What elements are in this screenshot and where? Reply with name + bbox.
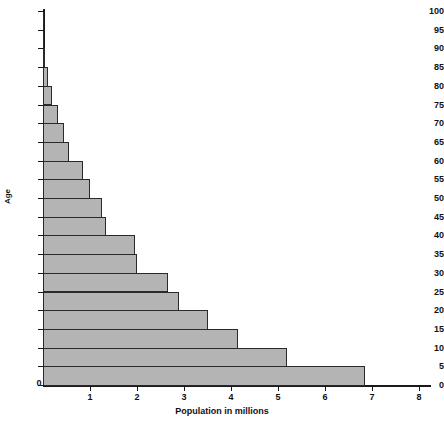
bar-age-90-95: [43, 30, 44, 50]
y-tick-mark-80: [38, 86, 44, 87]
x-tick-label-1: 1: [78, 392, 102, 402]
x-tick-mark-1: [90, 386, 91, 391]
y-tick-mark-25: [38, 292, 44, 293]
y-tick-label-25: 25: [410, 288, 444, 297]
y-tick-label-95: 95: [410, 26, 444, 35]
bar-age-95-100: [43, 11, 44, 31]
y-tick-label-55: 55: [410, 175, 444, 184]
y-tick-mark-15: [38, 329, 44, 330]
y-tick-label-35: 35: [410, 250, 444, 259]
y-tick-mark-30: [38, 273, 44, 274]
y-tick-mark-85: [38, 67, 44, 68]
x-tick-label-0: 0: [27, 378, 51, 388]
population-pyramid-chart: 0510152025303540455055606570758085909510…: [0, 0, 444, 425]
x-tick-label-8: 8: [407, 392, 431, 402]
y-tick-label-80: 80: [410, 82, 444, 91]
x-tick-label-6: 6: [313, 392, 337, 402]
bar-age-45-50: [43, 198, 102, 218]
y-tick-label-40: 40: [410, 231, 444, 240]
y-tick-label-75: 75: [410, 101, 444, 110]
x-tick-mark-7: [372, 386, 373, 391]
y-tick-mark-70: [38, 123, 44, 124]
y-tick-mark-10: [38, 348, 44, 349]
x-axis-title: Population in millions: [0, 406, 444, 416]
y-tick-label-0: 0: [410, 381, 444, 390]
bar-age-70-75: [43, 105, 58, 125]
y-tick-label-5: 5: [410, 362, 444, 371]
x-tick-mark-5: [278, 386, 279, 391]
y-tick-mark-5: [38, 366, 44, 367]
y-tick-mark-75: [38, 105, 44, 106]
x-tick-mark-3: [184, 386, 185, 391]
y-tick-label-85: 85: [410, 63, 444, 72]
bar-age-50-55: [43, 179, 90, 199]
y-tick-mark-50: [38, 198, 44, 199]
y-tick-label-15: 15: [410, 325, 444, 334]
bar-age-75-80: [43, 86, 52, 106]
bar-age-80-85: [43, 67, 48, 87]
y-tick-mark-40: [38, 235, 44, 236]
bar-age-10-15: [43, 329, 238, 349]
y-tick-mark-45: [38, 217, 44, 218]
x-tick-label-7: 7: [360, 392, 384, 402]
y-tick-mark-90: [38, 48, 44, 49]
y-tick-label-100: 100: [410, 7, 444, 16]
y-tick-mark-55: [38, 179, 44, 180]
y-tick-label-60: 60: [410, 157, 444, 166]
y-axis-title: Age: [3, 182, 12, 212]
bar-age-15-20: [43, 310, 208, 330]
y-tick-label-20: 20: [410, 306, 444, 315]
bar-age-35-40: [43, 235, 135, 255]
bar-age-40-45: [43, 217, 106, 237]
bar-age-0-5: [43, 366, 365, 386]
x-tick-mark-6: [325, 386, 326, 391]
y-tick-mark-65: [38, 142, 44, 143]
bar-age-85-90: [43, 48, 45, 68]
y-tick-mark-35: [38, 254, 44, 255]
y-tick-label-65: 65: [410, 138, 444, 147]
bar-age-55-60: [43, 161, 83, 181]
y-tick-mark-100: [38, 11, 44, 12]
y-tick-label-50: 50: [410, 194, 444, 203]
x-tick-label-5: 5: [266, 392, 290, 402]
bar-age-5-10: [43, 348, 287, 368]
y-tick-mark-95: [38, 30, 44, 31]
x-tick-mark-4: [231, 386, 232, 391]
bar-age-20-25: [43, 292, 179, 312]
x-tick-mark-8: [419, 386, 420, 391]
y-tick-mark-60: [38, 161, 44, 162]
bar-age-65-70: [43, 123, 64, 143]
x-tick-label-3: 3: [172, 392, 196, 402]
y-tick-label-90: 90: [410, 44, 444, 53]
y-tick-label-10: 10: [410, 344, 444, 353]
y-tick-label-70: 70: [410, 119, 444, 128]
x-tick-label-4: 4: [219, 392, 243, 402]
y-tick-label-30: 30: [410, 269, 444, 278]
y-tick-label-45: 45: [410, 213, 444, 222]
bar-age-25-30: [43, 273, 168, 293]
bar-age-60-65: [43, 142, 69, 162]
x-tick-mark-2: [137, 386, 138, 391]
bar-age-30-35: [43, 254, 137, 274]
x-tick-label-2: 2: [125, 392, 149, 402]
y-tick-mark-20: [38, 310, 44, 311]
